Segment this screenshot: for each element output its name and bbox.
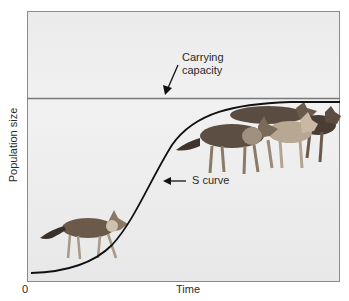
s-curve-label: S curve: [192, 174, 229, 187]
wolf-pack-icon: [176, 102, 341, 174]
carrying-capacity-label-line2: capacity: [182, 64, 222, 77]
carrying-capacity-label-line1: Carrying: [182, 51, 224, 64]
carrying-capacity-arrow-icon: [163, 65, 178, 95]
single-wolf-icon: [40, 210, 128, 259]
s-curve-arrow-icon: [163, 177, 186, 185]
chart-svg: [0, 0, 349, 301]
x-axis-label: Time: [176, 283, 200, 296]
origin-label: 0: [22, 283, 28, 296]
y-axis-label: Population size: [7, 99, 19, 191]
